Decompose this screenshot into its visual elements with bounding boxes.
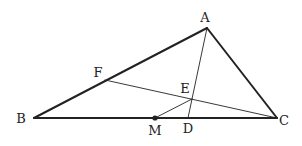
- segment-ME: [155, 99, 192, 118]
- label-D: D: [183, 121, 193, 136]
- label-F: F: [93, 65, 102, 80]
- triangle-diagram: ABCFEMD: [0, 0, 302, 146]
- point-markers: [152, 115, 157, 120]
- segment-AD: [188, 28, 207, 118]
- label-A: A: [199, 10, 210, 25]
- point-dot-M: [152, 115, 157, 120]
- label-M: M: [148, 123, 161, 138]
- label-C: C: [279, 113, 289, 128]
- segments: [34, 28, 277, 118]
- label-B: B: [16, 111, 26, 126]
- label-E: E: [180, 81, 190, 96]
